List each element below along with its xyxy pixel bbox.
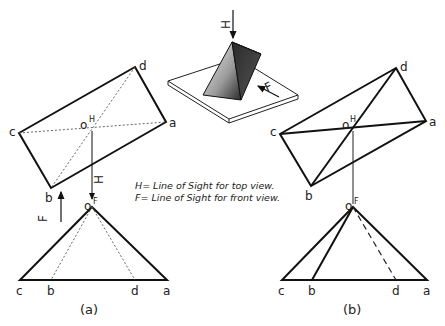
apex-label-o-sup: F [93, 197, 98, 206]
legend: H= Line of Sight for top view. F= Line o… [135, 180, 280, 203]
vertex-label-d: d [400, 60, 408, 74]
apex-label-o: o [342, 118, 349, 132]
vertex-label-d: d [131, 284, 139, 298]
orthographic-projection-diagram: H F d a c b o H H F o F c b d a [0, 0, 445, 326]
vertex-label-a: a [163, 284, 170, 298]
vertex-label-c: c [270, 125, 277, 139]
apex-label-o: o [84, 199, 91, 213]
vertex-label-d: d [392, 284, 400, 298]
f-sight-label-a: F [36, 215, 50, 222]
view-b-caption: (b) [343, 302, 361, 317]
vertex-label-d: d [139, 59, 147, 73]
vertex-label-b: b [305, 189, 313, 203]
view-a-front: o F c b d a [16, 197, 170, 298]
h-projection-label: H [91, 175, 105, 184]
apex-label-o: o [80, 118, 87, 132]
legend-line-f: F= Line of Sight for front view. [135, 192, 280, 203]
apex-label-o-sup: F [354, 197, 359, 206]
vertex-label-a: a [429, 115, 436, 129]
apex-label-o: o [345, 199, 352, 213]
view-b: d a c b o H o F c b d a (b) [270, 60, 436, 317]
pictorial-view: H F [168, 10, 298, 123]
vertex-label-c: c [278, 284, 285, 298]
vertex-label-b: b [47, 284, 55, 298]
apex-label-o-sup: H [89, 115, 95, 124]
vertex-label-b: b [308, 284, 316, 298]
vertex-label-c: c [16, 284, 23, 298]
apex-label-o-sup: H [350, 115, 356, 124]
vertex-label-c: c [9, 125, 16, 139]
vertex-label-a: a [423, 284, 430, 298]
vertex-label-b: b [45, 191, 53, 205]
vertex-label-a: a [169, 116, 176, 130]
view-a-caption: (a) [80, 302, 98, 317]
view-b-front: o F c b d a [278, 197, 430, 298]
legend-line-h: H= Line of Sight for top view. [135, 180, 275, 191]
h-sight-arrow-label: H [218, 20, 232, 29]
